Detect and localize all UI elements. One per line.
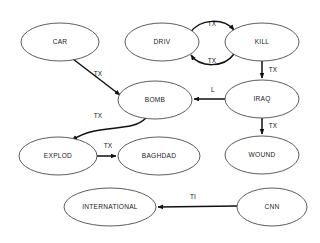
edge-label-bomb-explod: TX — [94, 112, 103, 119]
node-kill[interactable]: KILL — [225, 23, 299, 61]
edge-cnn-international — [158, 206, 237, 207]
node-label-cnn: CNN — [264, 203, 279, 210]
node-baghdad[interactable]: BAGHDAD — [118, 137, 200, 175]
edge-label-cnn-international: TI — [190, 193, 196, 200]
edge-label-iraq-wound: TX — [269, 122, 278, 129]
edge-label-kill-iraq: TX — [269, 66, 278, 73]
node-driv[interactable]: DRIV — [125, 23, 199, 61]
node-label-kill: KILL — [255, 38, 270, 45]
node-label-wound: WOUND — [249, 151, 276, 158]
node-label-baghdad: BAGHDAD — [142, 152, 176, 159]
node-label-car: CAR — [53, 38, 68, 45]
node-label-driv: DRIV — [154, 38, 171, 45]
node-explod[interactable]: EXPLOD — [19, 137, 97, 175]
edge-label-kill-driv-bottom: TX — [208, 57, 217, 64]
edge-car-bomb — [73, 59, 120, 95]
node-international[interactable]: INTERNATIONAL — [64, 188, 156, 226]
node-label-bomb: BOMB — [145, 96, 166, 103]
node-iraq[interactable]: IRAQ — [225, 80, 299, 118]
node-car[interactable]: CAR — [21, 23, 99, 61]
node-bomb[interactable]: BOMB — [118, 81, 192, 119]
edge-label-explod-baghdad: TX — [104, 142, 113, 149]
nodes-layer: CARDRIVKILLBOMBIRAQEXPLODBAGHDADWOUNDINT… — [19, 23, 307, 226]
edge-label-driv-kill-top: TX — [208, 20, 217, 27]
edge-label-iraq-bomb: L — [211, 86, 215, 93]
node-label-explod: EXPLOD — [44, 152, 72, 159]
edge-bomb-explod — [72, 118, 146, 140]
node-label-international: INTERNATIONAL — [82, 203, 138, 210]
relation-graph-diagram: CARDRIVKILLBOMBIRAQEXPLODBAGHDADWOUNDINT… — [0, 0, 320, 243]
edge-label-car-bomb: TX — [94, 70, 103, 77]
node-wound[interactable]: WOUND — [225, 136, 299, 174]
node-cnn[interactable]: CNN — [237, 188, 307, 226]
graph-canvas: CARDRIVKILLBOMBIRAQEXPLODBAGHDADWOUNDINT… — [0, 0, 320, 243]
node-label-iraq: IRAQ — [253, 95, 270, 103]
